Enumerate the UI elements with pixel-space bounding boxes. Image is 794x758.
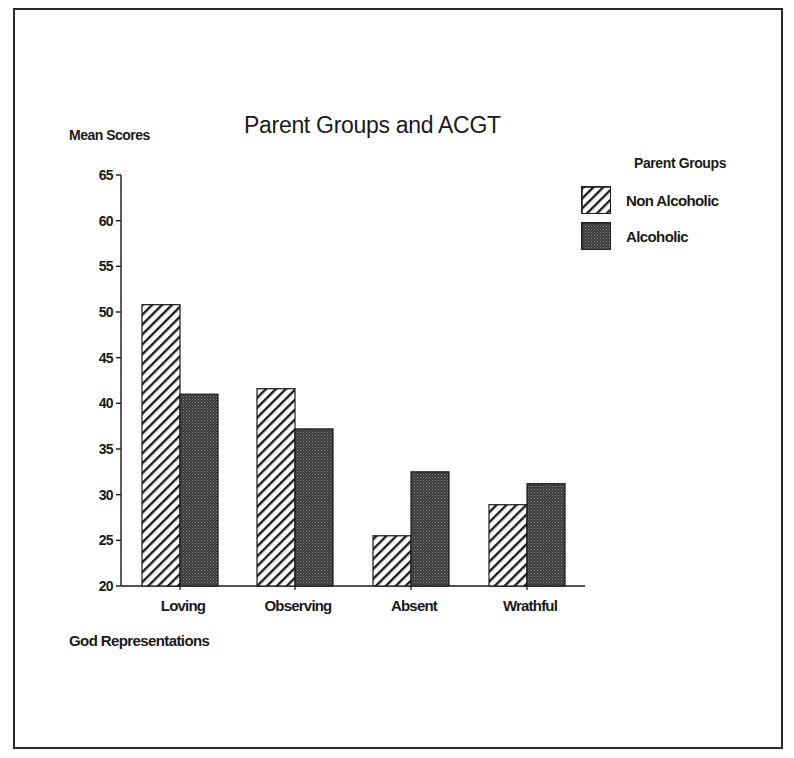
hatch-swatch-icon xyxy=(581,186,611,214)
legend-label: Non Alcoholic xyxy=(626,192,718,209)
y-axis-label: Mean Scores xyxy=(69,127,150,143)
legend-label: Alcoholic xyxy=(626,228,688,245)
legend-title: Parent Groups xyxy=(634,155,726,171)
stipple-swatch-icon xyxy=(581,222,611,250)
legend-item-non-alcoholic: Non Alcoholic xyxy=(581,186,718,214)
chart-title: Parent Groups and ACGT xyxy=(244,112,501,139)
legend-item-alcoholic: Alcoholic xyxy=(581,222,688,250)
x-axis-label: God Representations xyxy=(69,632,209,649)
